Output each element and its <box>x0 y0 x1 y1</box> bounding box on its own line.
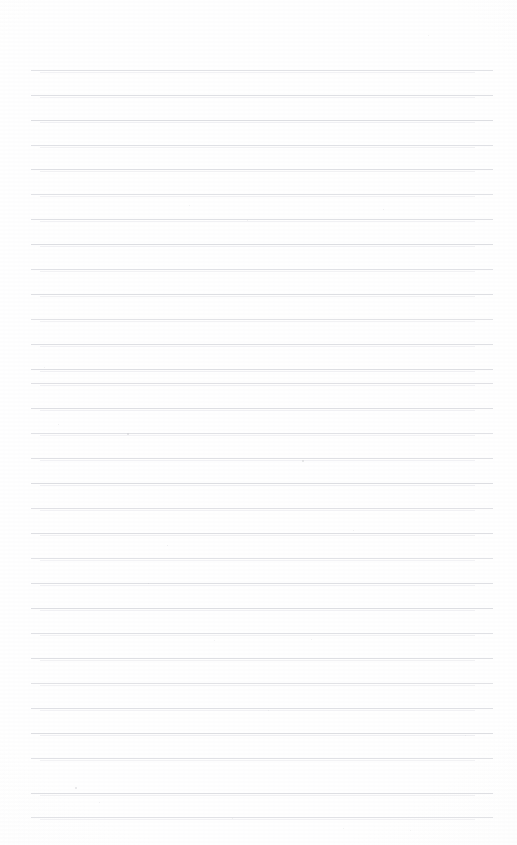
ruled-line <box>31 793 493 794</box>
scan-speck <box>302 460 304 462</box>
ruled-line <box>31 483 493 484</box>
ruled-line <box>31 95 493 96</box>
scan-speck <box>465 735 466 736</box>
ruled-line <box>31 344 493 345</box>
ruled-lines-layer <box>0 0 517 845</box>
ruled-line <box>31 219 493 220</box>
ruled-line <box>31 294 493 295</box>
ruled-line <box>31 145 493 146</box>
scan-speck <box>148 583 149 584</box>
ruled-line <box>31 733 493 734</box>
scan-speck <box>268 710 269 711</box>
ruled-line <box>31 369 493 370</box>
ruled-line <box>31 708 493 709</box>
scan-speck <box>311 639 312 640</box>
scan-speck <box>410 830 411 831</box>
ruled-line <box>31 583 493 584</box>
ruled-line <box>31 458 493 459</box>
scan-speck <box>428 35 429 36</box>
ruled-line <box>31 558 493 559</box>
ruled-line <box>31 169 493 170</box>
ruled-line <box>31 508 493 509</box>
scan-speck <box>167 545 168 546</box>
ruled-line <box>31 608 493 609</box>
ruled-line <box>31 194 493 195</box>
scan-speck <box>127 433 129 435</box>
ruled-line <box>31 817 493 818</box>
scan-speck <box>247 220 248 221</box>
ruled-line <box>31 683 493 684</box>
scanned-page <box>0 0 517 845</box>
ruled-line <box>31 408 493 409</box>
ruled-line <box>31 70 493 71</box>
ruled-line <box>31 120 493 121</box>
ruled-line <box>31 383 493 384</box>
scan-speck <box>189 205 190 206</box>
scan-speck <box>75 787 77 789</box>
scan-speck <box>214 640 215 641</box>
ruled-line <box>31 433 493 434</box>
scan-speck <box>343 828 344 829</box>
ruled-line <box>31 319 493 320</box>
scan-speck <box>383 209 384 210</box>
ruled-line <box>31 633 493 634</box>
scan-speck <box>232 818 233 819</box>
ruled-line <box>31 658 493 659</box>
ruled-line <box>31 244 493 245</box>
ruled-line <box>31 269 493 270</box>
scan-speck <box>44 367 45 368</box>
ruled-line <box>31 758 493 759</box>
scan-speck <box>99 802 100 803</box>
ruled-line <box>31 533 493 534</box>
scan-speck <box>58 424 59 425</box>
scan-speck <box>353 530 354 531</box>
